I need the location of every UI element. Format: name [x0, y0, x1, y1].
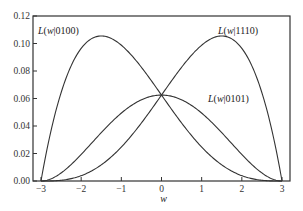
series-label-2: L(w|0101): [207, 93, 249, 105]
series-label-1: L(w|1110): [217, 25, 258, 37]
series-label-0: L(w|0100): [37, 25, 79, 37]
series-line-2: [41, 95, 282, 181]
y-tick-label: 0.02: [13, 149, 30, 159]
x-tick-label: −2: [76, 184, 86, 194]
y-tick-label: 0.06: [13, 94, 30, 104]
plot-frame: [33, 16, 290, 181]
x-tick-label: 1: [199, 184, 204, 194]
x-tick-label: 3: [280, 184, 285, 194]
x-tick-label: 2: [239, 184, 244, 194]
likelihood-chart: 0.000.020.040.060.080.100.12−3−2−10123wL…: [0, 0, 303, 211]
y-tick-label: 0.00: [13, 176, 30, 186]
y-tick-label: 0.04: [13, 121, 30, 131]
y-tick-label: 0.12: [13, 11, 30, 21]
y-tick-label: 0.10: [13, 39, 30, 49]
x-tick-label: −3: [36, 184, 46, 194]
x-axis-label: w: [160, 193, 167, 204]
x-tick-label: −1: [116, 184, 126, 194]
y-tick-label: 0.08: [13, 66, 30, 76]
